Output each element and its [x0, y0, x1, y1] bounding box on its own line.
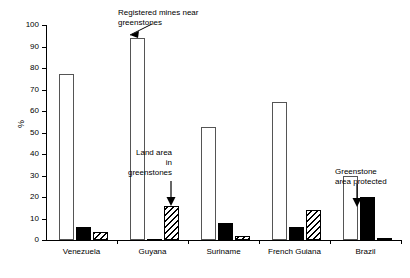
- bar-hatched-brazil: [377, 238, 392, 240]
- annotation-arrow-land-area: [164, 181, 178, 207]
- y-axis-tick-label: 30: [30, 172, 39, 180]
- y-axis-tick-label: 40: [30, 150, 39, 158]
- y-axis-tick: [42, 240, 46, 241]
- y-axis-tick-label: 0: [35, 236, 39, 244]
- bar-hatched-venezuela: [93, 232, 108, 240]
- bar-white-outline-french-guiana: [272, 102, 287, 240]
- bar-chart: 0102030405060708090100 VenezuelaGuyanaSu…: [0, 0, 410, 278]
- y-axis-tick-label: 20: [30, 193, 39, 201]
- y-axis-tick-label: 90: [30, 43, 39, 51]
- bar-solid-black-french-guiana: [289, 227, 304, 240]
- bar-hatched-suriname: [235, 236, 250, 240]
- x-axis-end-tick: [401, 240, 402, 244]
- annotation-land-area: Land area in greenstones: [128, 148, 172, 178]
- y-axis-tick-label: 50: [30, 129, 39, 137]
- x-axis-group-tick: [330, 240, 331, 244]
- bar-white-outline-guyana: [130, 38, 145, 240]
- y-axis-tick-label: 80: [30, 64, 39, 72]
- x-axis-group-tick: [188, 240, 189, 244]
- y-axis-title: %: [16, 120, 26, 128]
- plot-area: 0102030405060708090100 VenezuelaGuyanaSu…: [46, 25, 401, 240]
- y-axis-tick-label: 60: [30, 107, 39, 115]
- bar-group: Brazil: [330, 25, 401, 240]
- y-axis-tick-label: 70: [30, 86, 39, 94]
- x-axis-category-label: Suriname: [188, 247, 259, 256]
- bar-group: Venezuela: [46, 25, 117, 240]
- y-axis-tick-label: 10: [30, 215, 39, 223]
- bar-solid-black-venezuela: [76, 227, 91, 240]
- x-axis-category-label: Guyana: [117, 247, 188, 256]
- bar-group: Suriname: [188, 25, 259, 240]
- annotation-arrow-greenstone-protected: [350, 184, 364, 208]
- x-axis-group-tick: [117, 240, 118, 244]
- x-axis-category-label: Brazil: [330, 247, 401, 256]
- bar-hatched-guyana: [164, 206, 179, 240]
- bar-white-outline-suriname: [201, 127, 216, 240]
- bar-hatched-french-guiana: [306, 210, 321, 240]
- bar-white-outline-venezuela: [59, 74, 74, 240]
- annotation-arrow-registered-mines: [100, 18, 160, 48]
- bar-group: French Guiana: [259, 25, 330, 240]
- bar-group: Guyana: [117, 25, 188, 240]
- x-axis-category-label: Venezuela: [46, 247, 117, 256]
- y-axis-tick-label: 100: [26, 21, 39, 29]
- x-axis-group-tick: [259, 240, 260, 244]
- x-axis-line: [46, 240, 401, 241]
- bar-solid-black-suriname: [218, 223, 233, 240]
- bar-solid-black-guyana: [147, 239, 162, 241]
- x-axis-category-label: French Guiana: [259, 247, 330, 256]
